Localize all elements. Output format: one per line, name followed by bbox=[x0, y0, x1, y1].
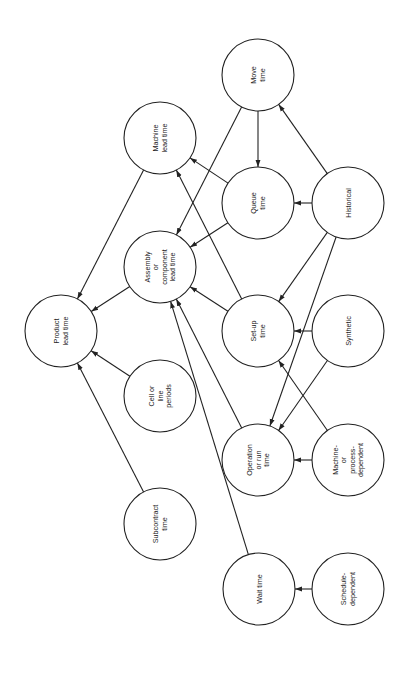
node-synthetic: Synthetic bbox=[312, 295, 384, 367]
edge-cell-to-product bbox=[91, 351, 130, 376]
lead-time-diagram: Productlead timeMachinelead timeAssembly… bbox=[0, 0, 406, 684]
edge-queue-to-machine_lead bbox=[190, 158, 228, 183]
node-label: Movetime bbox=[249, 66, 266, 84]
edges-layer bbox=[77, 104, 336, 589]
node-label: Schedule-dependent bbox=[339, 572, 356, 606]
node-product: Productlead time bbox=[25, 295, 97, 367]
node-move: Movetime bbox=[222, 39, 294, 111]
edge-historical-to-setup bbox=[279, 232, 328, 301]
node-wait: Wait time bbox=[223, 553, 295, 625]
node-assembly: Assemblyorcomponentlead time bbox=[124, 231, 196, 303]
node-setup: Set-uptime bbox=[222, 295, 294, 367]
node-schedule_dep: Schedule-dependent bbox=[312, 553, 384, 625]
node-label: Machinelead time bbox=[151, 123, 168, 152]
node-label: Assemblyorcomponentlead time bbox=[143, 249, 177, 285]
node-label: Productlead time bbox=[52, 316, 69, 345]
node-cell: Cell orlineperiods bbox=[124, 360, 196, 432]
node-subcontract: Subcontracttime bbox=[124, 488, 196, 560]
node-historical: Historical bbox=[312, 167, 384, 239]
node-machine_lead: Machinelead time bbox=[124, 102, 196, 174]
node-machine_dep: Machine-orprocess-dependent bbox=[312, 424, 384, 496]
edge-assembly-to-product bbox=[91, 287, 130, 312]
node-label: Machine-orprocess-dependent bbox=[331, 443, 365, 477]
node-label: Synthetic bbox=[344, 316, 353, 346]
node-label: Wait time bbox=[255, 574, 264, 604]
edge-setup-to-assembly bbox=[190, 287, 228, 312]
node-label: Historical bbox=[344, 188, 353, 218]
edge-historical-to-move bbox=[279, 104, 328, 173]
nodes-layer: Productlead timeMachinelead timeAssembly… bbox=[25, 39, 384, 625]
node-operation: Operationor runtime bbox=[222, 424, 294, 496]
node-queue: Queuetime bbox=[222, 167, 294, 239]
